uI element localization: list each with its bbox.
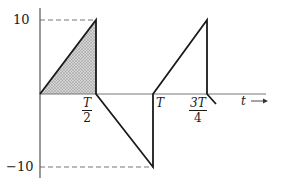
x-label-half-period-numerator: T	[82, 97, 92, 111]
waveform-diagram: 10 −10 T 2 T 3T 4 t	[0, 0, 281, 189]
t-axis-arrow-head-icon	[263, 99, 268, 104]
waveform-plot	[0, 0, 281, 189]
x-label-three-quarter-denominator: 4	[194, 111, 202, 124]
t-axis-label: t	[241, 95, 246, 107]
x-label-half-period: T 2	[82, 97, 92, 124]
y-label-10: 10	[13, 13, 30, 26]
x-label-three-quarter-numerator: 3T	[189, 97, 207, 111]
x-label-period: T	[156, 97, 164, 109]
x-label-three-quarter: 3T 4	[189, 97, 207, 124]
x-label-half-period-denominator: 2	[83, 111, 91, 124]
y-label-negative-10: −10	[6, 160, 33, 173]
